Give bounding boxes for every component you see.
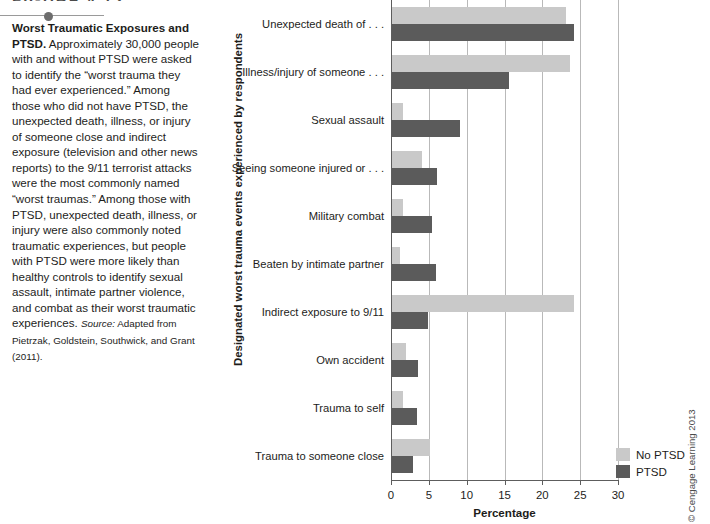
x-axis-tick-label: 0 (388, 489, 394, 501)
x-axis-tick-label: 20 (536, 489, 549, 501)
bar-no-ptsd (392, 391, 403, 408)
bar-chart: Designated worst trauma events experienc… (212, 0, 710, 524)
bar-no-ptsd (392, 199, 403, 216)
x-axis-tick (542, 480, 543, 485)
x-axis-tick-label: 25 (574, 489, 587, 501)
bar-ptsd (392, 120, 460, 137)
y-axis-tick-label: Seeing someone injured or . . . (212, 162, 390, 174)
bar-ptsd (392, 24, 574, 41)
y-axis-tick-label: Unexpected death of . . . (212, 18, 390, 30)
bar-ptsd (392, 264, 436, 281)
x-gridline (580, 0, 581, 480)
legend-swatch-no-ptsd (616, 448, 630, 461)
bar-ptsd (392, 168, 437, 185)
bar-ptsd (392, 456, 413, 473)
figure-caption-column: FIGURE 4.12 Worst Traumatic Exposures an… (0, 0, 212, 524)
x-axis-tick (505, 480, 506, 485)
y-axis-tick-label: Military combat (212, 210, 390, 222)
bar-no-ptsd (392, 103, 403, 120)
plot-wrapper: Unexpected death of . . .Illness/injury … (212, 0, 618, 490)
y-axis-tick-label: Trauma to self (212, 402, 390, 414)
y-axis-tick-labels: Unexpected death of . . .Illness/injury … (212, 0, 390, 480)
bar-no-ptsd (392, 7, 566, 24)
copyright-notice: © Cengage Learning 2013 (686, 409, 697, 522)
x-axis-tick-label: 5 (426, 489, 432, 501)
y-axis-tick-label: Own accident (212, 354, 390, 366)
x-axis-tick (391, 480, 392, 485)
bar-no-ptsd (392, 439, 430, 456)
bar-no-ptsd (392, 295, 574, 312)
caption-source-label: Source: (81, 318, 115, 329)
x-axis-tick (429, 480, 430, 485)
bar-ptsd (392, 216, 432, 233)
legend-label-no-ptsd: No PTSD (636, 448, 685, 461)
x-gridline (542, 0, 543, 480)
x-axis-tick-label: 30 (612, 489, 625, 501)
legend-swatch-ptsd (616, 465, 630, 478)
bar-ptsd (392, 408, 417, 425)
caption-body: Approximately 30,000 people with and wit… (12, 37, 199, 330)
bar-ptsd (392, 312, 428, 329)
x-axis-tick-label: 10 (460, 489, 473, 501)
y-axis-tick-label: Indirect exposure to 9/11 (212, 306, 390, 318)
bar-no-ptsd (392, 151, 422, 168)
x-axis-tick-label: 15 (498, 489, 511, 501)
y-axis-tick-label: Trauma to someone close (212, 450, 390, 462)
legend-label-ptsd: PTSD (636, 465, 667, 478)
x-axis-tick (580, 480, 581, 485)
plot-area: 051015202530 (391, 0, 618, 480)
x-axis-tick (467, 480, 468, 485)
y-axis-tick-label: Beaten by intimate partner (212, 258, 390, 270)
y-axis-tick-label: Sexual assault (212, 114, 390, 126)
bar-ptsd (392, 360, 418, 377)
y-axis-tick-label: Illness/injury of someone . . . (212, 66, 390, 78)
bar-no-ptsd (392, 247, 400, 264)
x-axis-title: Percentage (391, 506, 618, 519)
figure-number-header: FIGURE 4.12 (12, 0, 124, 1)
bar-no-ptsd (392, 343, 406, 360)
bar-no-ptsd (392, 55, 570, 72)
bar-ptsd (392, 72, 509, 89)
caption-text: Worst Traumatic Exposures and PTSD. Appr… (12, 20, 200, 365)
x-gridline (618, 0, 619, 480)
